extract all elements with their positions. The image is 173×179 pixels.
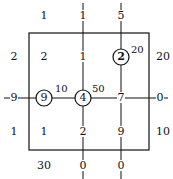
top-label-3: 5 [117, 10, 125, 21]
left-label-1: 2 [4, 51, 24, 62]
grid-lines [0, 0, 173, 179]
cell-r3-c2: 2 [79, 126, 87, 137]
cell-r2-c3: 7 [117, 92, 125, 103]
cell-r1-c2: 1 [79, 51, 87, 62]
top-label-2: 1 [73, 10, 93, 21]
right-label-3: 10 [153, 126, 173, 137]
right-label-2: 0 [156, 92, 164, 103]
circle-label-20: 20 [131, 45, 144, 55]
bottom-label-1: 30 [34, 160, 54, 171]
cell-r1-c3: 2 [111, 51, 131, 62]
left-label-2: 9 [10, 92, 18, 103]
cell-r3-c3: 9 [117, 126, 125, 137]
bottom-label-2: 0 [79, 160, 87, 171]
cell-r1-c1: 2 [34, 51, 54, 62]
circle-label-50: 50 [92, 84, 105, 94]
cell-r2-c2: 4 [73, 92, 93, 103]
cell-r2-c1: 9 [34, 92, 54, 103]
circle-label-10: 10 [55, 84, 68, 94]
cell-r3-c1: 1 [34, 126, 54, 137]
top-label-1: 1 [34, 10, 54, 21]
right-label-1: 20 [153, 51, 173, 62]
bottom-label-3: 0 [117, 160, 125, 171]
left-label-3: 1 [4, 126, 24, 137]
